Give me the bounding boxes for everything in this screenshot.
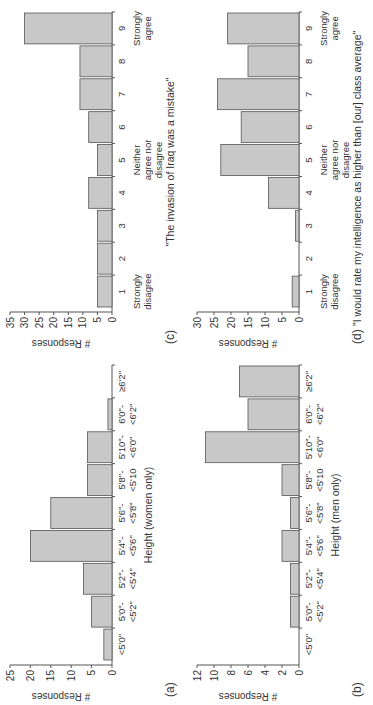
svg-text:≥6'2": ≥6'2" [303, 371, 314, 392]
svg-text:5'2"-: 5'2"- [116, 569, 127, 588]
bar [108, 399, 112, 430]
svg-text:<5'2": <5'2" [127, 601, 138, 622]
svg-text:20: 20 [226, 317, 237, 329]
svg-text:9: 9 [303, 26, 314, 31]
figure: 0510152025# Responses<5'0"5'0"-<5'2"5'2"… [0, 0, 373, 705]
svg-text:4: 4 [116, 190, 127, 195]
svg-text:Height (men only): Height (men only) [329, 474, 341, 557]
svg-text:<5'6": <5'6" [314, 535, 325, 556]
svg-text:"The invasion of Iraq was a mi: "The invasion of Iraq was a mistake" [164, 77, 176, 246]
svg-text:disagree: disagree [142, 273, 153, 309]
svg-text:<5'4": <5'4" [314, 568, 325, 589]
svg-text:1: 1 [116, 289, 127, 294]
svg-text:2: 2 [116, 256, 127, 261]
svg-text:"I would rate my intelligence: "I would rate my intelligence as higher … [351, 31, 363, 326]
bar [89, 177, 112, 208]
bar [97, 145, 112, 176]
svg-text:(d): (d) [350, 329, 364, 344]
bar [88, 432, 112, 463]
svg-text:20: 20 [48, 317, 59, 329]
bar [89, 112, 112, 143]
svg-text:5'0"-: 5'0"- [116, 602, 127, 621]
svg-text:5'8"-: 5'8"- [303, 471, 314, 490]
bar [240, 366, 300, 397]
bar [282, 465, 299, 496]
chart-svg: 024681012# Responses<5'0"5'0"-<5'2"5'2"-… [187, 353, 373, 705]
svg-text:5'8"-: 5'8"- [116, 471, 127, 490]
svg-text:3: 3 [116, 223, 127, 228]
bar [291, 563, 300, 594]
bar [241, 112, 299, 143]
svg-text:35: 35 [5, 317, 16, 329]
svg-text:<6'0": <6'0" [314, 437, 325, 458]
svg-text:0: 0 [107, 317, 118, 323]
svg-text:4: 4 [260, 670, 271, 676]
bar [80, 46, 112, 77]
bar [268, 177, 299, 208]
svg-text:10: 10 [77, 317, 88, 329]
svg-text:<5'10: <5'10 [127, 469, 138, 492]
svg-text:agree: agree [142, 16, 153, 40]
svg-text:30: 30 [19, 317, 30, 329]
bar [206, 432, 300, 463]
svg-text:8: 8 [226, 670, 237, 676]
panel-b-men-height: 024681012# Responses<5'0"5'0"-<5'2"5'2"-… [187, 353, 373, 705]
svg-text:<5'4": <5'4" [127, 568, 138, 589]
svg-text:5'10"-: 5'10"- [303, 435, 314, 459]
bar [80, 79, 112, 110]
bar [248, 46, 299, 77]
svg-text:# Responses: # Responses [32, 691, 90, 702]
bar [30, 530, 112, 561]
svg-text:<6'2": <6'2" [127, 404, 138, 425]
bar [51, 498, 112, 529]
svg-text:8: 8 [116, 59, 127, 64]
bar [25, 13, 112, 44]
svg-text:Height (women only): Height (women only) [142, 467, 154, 563]
bar [248, 399, 299, 430]
svg-text:25: 25 [5, 670, 16, 682]
bar [92, 596, 112, 627]
svg-text:0: 0 [294, 670, 305, 676]
svg-text:<5'10: <5'10 [314, 469, 325, 492]
svg-text:5'6"-: 5'6"- [116, 504, 127, 523]
svg-text:(c): (c) [163, 330, 177, 344]
bar [296, 210, 299, 241]
svg-text:7: 7 [303, 92, 314, 97]
chart-svg: 0510152025# Responses<5'0"5'0"-<5'2"5'2"… [0, 353, 186, 705]
svg-text:5: 5 [277, 317, 288, 323]
svg-text:6'0"-: 6'0"- [303, 405, 314, 424]
bar [291, 596, 300, 627]
svg-text:7: 7 [116, 92, 127, 97]
svg-text:15: 15 [243, 317, 254, 329]
svg-text:5: 5 [92, 317, 103, 323]
bar [221, 145, 299, 176]
svg-text:6: 6 [243, 670, 254, 676]
svg-text:<5'0": <5'0" [303, 634, 314, 655]
svg-text:25: 25 [209, 317, 220, 329]
svg-text:disagree: disagree [153, 142, 164, 178]
svg-text:15: 15 [45, 670, 56, 682]
bar [97, 243, 112, 274]
svg-text:5: 5 [86, 670, 97, 676]
svg-text:agree nor: agree nor [329, 140, 340, 181]
svg-text:6: 6 [303, 124, 314, 129]
bar [282, 530, 299, 561]
svg-text:(a): (a) [163, 682, 177, 697]
svg-text:5'4"-: 5'4"- [303, 536, 314, 555]
svg-text:12: 12 [192, 670, 203, 682]
svg-text:≥6'2": ≥6'2" [116, 371, 127, 392]
panel-c-iraq: 05101520253035# Responses1Stronglydisagr… [0, 0, 186, 352]
bar [292, 276, 299, 307]
svg-text:10: 10 [66, 670, 77, 682]
svg-text:10: 10 [209, 670, 220, 682]
svg-text:15: 15 [63, 317, 74, 329]
svg-text:<6'2": <6'2" [314, 404, 325, 425]
svg-text:<6'0": <6'0" [127, 437, 138, 458]
svg-text:# Responses: # Responses [219, 691, 277, 702]
bar [217, 79, 299, 110]
bar [83, 563, 112, 594]
svg-text:5: 5 [116, 157, 127, 162]
svg-text:25: 25 [34, 317, 45, 329]
svg-text:agree: agree [329, 16, 340, 40]
svg-text:Strongly: Strongly [318, 11, 329, 46]
